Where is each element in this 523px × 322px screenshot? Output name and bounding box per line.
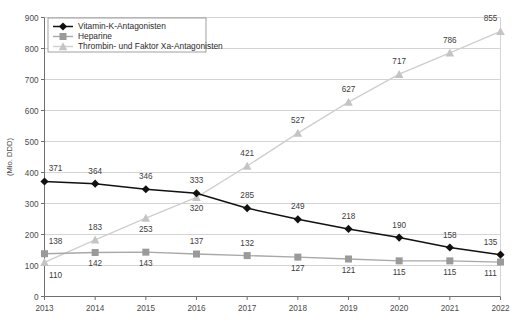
data-label-hep: 111 bbox=[484, 269, 497, 278]
data-label-thr: 110 bbox=[49, 271, 62, 280]
x-tick-label: 2020 bbox=[390, 304, 409, 313]
x-tick-label: 2021 bbox=[441, 304, 460, 313]
data-label-vka: 249 bbox=[291, 202, 305, 211]
gridlines-group bbox=[45, 18, 501, 266]
series-lines-group bbox=[45, 31, 501, 262]
data-labels-group: 1101832533204215276277177868551381421431… bbox=[49, 14, 498, 280]
data-label-hep: 127 bbox=[291, 264, 305, 273]
legend-item-label: Thrombin- und Faktor Xa-Antagonisten bbox=[78, 41, 223, 51]
data-point-marker-vka bbox=[142, 185, 150, 193]
data-point-marker-vka bbox=[446, 243, 454, 251]
series-line-vka bbox=[45, 181, 501, 254]
data-label-thr: 253 bbox=[139, 225, 153, 234]
data-point-marker-thr bbox=[91, 235, 100, 243]
data-point-marker-thr bbox=[395, 70, 404, 78]
series-line-hep bbox=[45, 252, 501, 262]
data-label-hep: 142 bbox=[88, 259, 102, 268]
data-label-vka: 218 bbox=[342, 212, 356, 221]
line-chart: 0100200300400500600700800900 20132014201… bbox=[0, 0, 523, 322]
data-label-thr: 320 bbox=[190, 204, 204, 213]
data-label-vka: 135 bbox=[484, 238, 498, 247]
x-tick-label: 2015 bbox=[137, 304, 156, 313]
data-point-marker-thr bbox=[142, 214, 151, 222]
chart-container: 0100200300400500600700800900 20132014201… bbox=[0, 0, 523, 322]
data-label-thr: 627 bbox=[342, 85, 356, 94]
data-point-marker-vka bbox=[91, 180, 99, 188]
data-point-marker-vka bbox=[344, 225, 352, 233]
data-label-vka: 346 bbox=[139, 172, 153, 181]
data-label-hep: 121 bbox=[342, 266, 356, 275]
y-tick-label: 0 bbox=[34, 293, 39, 302]
y-tick-labels: 0100200300400500600700800900 bbox=[25, 14, 39, 302]
y-axis-title: (Mio. DDD) bbox=[5, 138, 14, 176]
data-point-marker-hep bbox=[92, 249, 99, 256]
data-point-marker-hep bbox=[446, 257, 453, 264]
x-tick-label: 2017 bbox=[238, 304, 257, 313]
data-label-thr: 183 bbox=[88, 223, 102, 232]
data-label-vka: 190 bbox=[392, 221, 406, 230]
series-line-thr bbox=[45, 31, 501, 262]
x-tick-label: 2014 bbox=[86, 304, 105, 313]
series-markers-group bbox=[40, 27, 505, 266]
y-tick-label: 200 bbox=[25, 231, 39, 240]
data-point-marker-vka bbox=[243, 204, 251, 212]
legend-marker-square-icon bbox=[60, 33, 67, 40]
legend-item-thr[interactable]: Thrombin- und Faktor Xa-Antagonisten bbox=[53, 41, 223, 51]
data-point-marker-vka bbox=[40, 177, 48, 185]
data-label-thr: 855 bbox=[484, 14, 498, 23]
y-tick-label: 400 bbox=[25, 169, 39, 178]
y-tick-label: 300 bbox=[25, 200, 39, 209]
data-point-marker-hep bbox=[193, 251, 200, 258]
data-point-marker-hep bbox=[244, 252, 251, 259]
data-point-marker-hep bbox=[396, 257, 403, 264]
data-label-thr: 786 bbox=[443, 36, 457, 45]
data-point-marker-thr bbox=[344, 98, 353, 106]
data-point-marker-thr bbox=[294, 129, 303, 137]
x-tick-label: 2013 bbox=[35, 304, 54, 313]
x-tick-label: 2018 bbox=[289, 304, 308, 313]
y-tick-label: 500 bbox=[25, 138, 39, 147]
data-label-hep: 132 bbox=[240, 239, 254, 248]
data-label-vka: 158 bbox=[443, 231, 457, 240]
y-tick-label: 800 bbox=[25, 45, 39, 54]
data-label-vka: 371 bbox=[49, 164, 63, 173]
data-point-marker-thr bbox=[446, 49, 455, 57]
data-point-marker-thr bbox=[496, 27, 505, 35]
y-tick-label: 900 bbox=[25, 14, 39, 23]
data-point-marker-vka bbox=[496, 251, 504, 259]
data-label-hep: 143 bbox=[139, 259, 153, 268]
y-axis-title-group: (Mio. DDD) bbox=[5, 138, 14, 176]
x-tick-label: 2019 bbox=[339, 304, 358, 313]
data-point-marker-thr bbox=[40, 258, 49, 266]
y-tick-label: 700 bbox=[25, 76, 39, 85]
data-point-marker-hep bbox=[497, 259, 504, 266]
data-label-vka: 364 bbox=[88, 167, 102, 176]
data-point-marker-vka bbox=[294, 215, 302, 223]
y-tick-label: 100 bbox=[25, 262, 39, 271]
data-point-marker-thr bbox=[243, 162, 252, 170]
data-label-hep: 115 bbox=[443, 268, 456, 277]
data-label-thr: 527 bbox=[291, 116, 305, 125]
data-point-marker-hep bbox=[142, 249, 149, 256]
data-label-hep: 138 bbox=[49, 237, 63, 246]
data-label-hep: 137 bbox=[190, 237, 204, 246]
data-point-marker-hep bbox=[294, 254, 301, 261]
legend-item-label: Vitamin-K-Antagonisten bbox=[78, 21, 166, 31]
legend-item-label: Heparine bbox=[78, 31, 112, 41]
x-tick-label: 2022 bbox=[491, 304, 510, 313]
data-label-vka: 333 bbox=[190, 176, 204, 185]
data-label-thr: 421 bbox=[240, 149, 254, 158]
data-point-marker-hep bbox=[41, 250, 48, 257]
x-tick-labels: 2013201420152016201720182019202020212022 bbox=[35, 304, 510, 313]
data-point-marker-hep bbox=[345, 255, 352, 262]
legend[interactable]: Vitamin-K-AntagonistenHeparineThrombin- … bbox=[48, 18, 223, 52]
x-tick-label: 2016 bbox=[187, 304, 206, 313]
data-label-thr: 717 bbox=[392, 57, 406, 66]
data-label-hep: 115 bbox=[393, 268, 406, 277]
data-label-vka: 285 bbox=[240, 191, 254, 200]
y-tick-label: 600 bbox=[25, 107, 39, 116]
